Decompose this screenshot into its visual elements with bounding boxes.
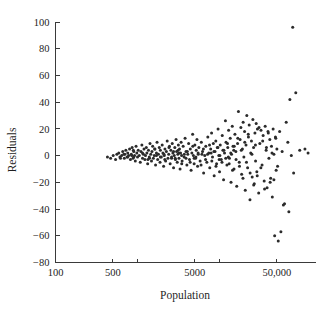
data-point — [154, 163, 157, 166]
data-point — [174, 157, 177, 160]
data-point — [238, 165, 241, 168]
data-point — [272, 127, 275, 130]
y-tick-label: 80 — [39, 43, 50, 54]
data-point — [273, 234, 276, 237]
data-point — [262, 134, 265, 137]
data-point — [231, 125, 234, 128]
data-point — [278, 130, 281, 133]
data-point — [176, 161, 179, 164]
data-point — [270, 145, 273, 148]
data-point — [186, 153, 189, 156]
data-point — [191, 133, 194, 136]
data-point — [156, 158, 159, 161]
data-point — [210, 159, 213, 162]
data-point — [150, 150, 153, 153]
data-point — [130, 154, 133, 157]
data-point — [265, 146, 268, 149]
data-point — [147, 149, 150, 152]
data-point — [252, 184, 255, 187]
data-point — [238, 161, 241, 164]
data-point — [232, 149, 235, 152]
data-point — [298, 149, 301, 152]
data-point — [228, 162, 231, 165]
data-point — [226, 146, 229, 149]
data-point — [227, 155, 230, 158]
data-point — [151, 145, 154, 148]
data-point — [144, 154, 147, 157]
data-point — [214, 165, 217, 168]
data-point — [274, 137, 277, 140]
data-point — [287, 210, 290, 213]
data-point — [193, 162, 196, 165]
data-point — [209, 147, 212, 150]
data-point — [290, 154, 293, 157]
data-point — [196, 165, 199, 168]
data-point — [206, 135, 209, 138]
data-point — [126, 155, 129, 158]
data-point — [180, 141, 183, 144]
data-point — [272, 178, 275, 181]
data-point — [246, 166, 249, 169]
data-point — [235, 158, 238, 161]
data-point — [128, 147, 131, 150]
data-point — [122, 153, 125, 156]
data-point — [204, 145, 207, 148]
y-tick-label: 100 — [34, 17, 50, 28]
data-point — [268, 138, 271, 141]
data-point — [265, 149, 268, 152]
data-point — [239, 126, 242, 129]
data-point — [218, 154, 221, 157]
data-point — [202, 147, 205, 150]
data-point — [208, 143, 211, 146]
data-point — [241, 177, 244, 180]
data-point — [229, 137, 232, 140]
data-point — [248, 123, 251, 126]
data-point — [145, 146, 148, 149]
data-point — [218, 170, 221, 173]
data-point — [112, 154, 115, 157]
y-tick-label: −40 — [33, 204, 49, 215]
data-point — [162, 153, 165, 156]
data-point — [145, 151, 148, 154]
data-point — [134, 159, 137, 162]
data-point — [117, 151, 120, 154]
x-tick-label: 50,000 — [262, 267, 291, 278]
data-point — [135, 145, 138, 148]
data-point — [159, 161, 162, 164]
data-point — [217, 127, 220, 130]
data-point — [221, 134, 224, 137]
data-point — [233, 133, 236, 136]
data-point — [131, 146, 134, 149]
data-point — [182, 145, 185, 148]
data-point — [236, 137, 239, 140]
data-point — [208, 166, 211, 169]
data-point — [200, 141, 203, 144]
data-point — [166, 139, 169, 142]
data-point — [235, 185, 238, 188]
data-point — [195, 138, 198, 141]
data-point — [292, 171, 295, 174]
data-point — [267, 131, 270, 134]
data-point — [201, 150, 204, 153]
data-point — [162, 165, 165, 168]
data-point — [244, 189, 247, 192]
data-point — [206, 153, 209, 156]
data-point — [170, 157, 173, 160]
data-point — [114, 158, 117, 161]
data-point — [163, 147, 166, 150]
data-point — [155, 154, 158, 157]
data-point — [165, 150, 168, 153]
data-point — [229, 151, 232, 154]
data-point — [276, 165, 279, 168]
data-point — [143, 158, 146, 161]
data-point — [254, 143, 257, 146]
data-point — [152, 157, 155, 160]
data-point — [242, 121, 245, 124]
data-point — [223, 151, 226, 154]
data-point — [138, 154, 141, 157]
data-point — [191, 145, 194, 148]
data-point — [163, 158, 166, 161]
data-point — [255, 122, 258, 125]
data-point — [261, 163, 264, 166]
data-point — [158, 146, 161, 149]
